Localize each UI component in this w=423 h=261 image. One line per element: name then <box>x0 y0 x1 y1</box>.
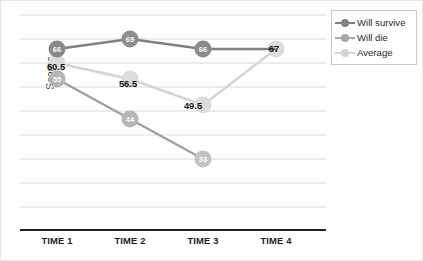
series-average <box>49 41 285 114</box>
legend-marker-will-survive-icon <box>335 17 355 28</box>
legend-label-will-die: Will die <box>357 32 388 43</box>
legend-item-average[interactable]: Average <box>335 45 412 60</box>
legend-label-will-survive: Will survive <box>357 17 406 28</box>
value-die-t3: 33 <box>199 155 207 164</box>
x-tick-time-3: TIME 3 <box>173 235 233 246</box>
legend-marker-will-die-icon <box>335 32 355 43</box>
legend-item-will-survive[interactable]: Will survive <box>335 15 412 30</box>
value-survive-t2: 69 <box>126 35 134 44</box>
value-die-t1: 55 <box>53 75 62 84</box>
legend-marker-average-icon <box>335 47 355 58</box>
x-tick-time-2: TIME 2 <box>100 235 160 246</box>
series-will-survive <box>49 31 277 58</box>
value-average-t2: 56.5 <box>119 78 137 89</box>
value-survive-t3: 66 <box>199 45 207 54</box>
x-tick-time-1: TIME 1 <box>27 235 87 246</box>
value-survive-t4: 67 <box>269 43 279 54</box>
x-tick-time-4: TIME 4 <box>246 235 306 246</box>
legend-item-will-die[interactable]: Will die <box>335 30 412 45</box>
chart-legend: Will survive Will die Average <box>331 10 417 65</box>
value-average-t1: 60.5 <box>47 61 65 72</box>
value-survive-t1: 66 <box>53 45 61 54</box>
line-chart: Scores <box>0 0 423 261</box>
legend-label-average: Average <box>357 47 393 58</box>
value-average-t3: 49.5 <box>184 100 202 111</box>
value-die-t2: 44 <box>126 115 135 124</box>
plot-area: Scores <box>20 9 326 233</box>
plot-canvas: 66 69 66 55 44 33 60.5 56.5 49.5 67 <box>20 9 326 233</box>
